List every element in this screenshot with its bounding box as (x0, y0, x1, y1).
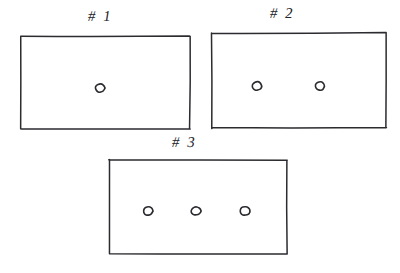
panel-3-circle-2 (191, 207, 201, 215)
panel-2-circle-1 (252, 82, 262, 91)
panel-1-circle-1 (95, 84, 105, 92)
panel-2-rectangle (211, 32, 386, 128)
panel-1-rectangle (21, 36, 191, 129)
panel-2-circle-2 (315, 82, 324, 90)
panel-3-circle-1 (144, 207, 153, 215)
panel-1-circles (95, 84, 105, 92)
panel-3-circle-3 (240, 207, 250, 215)
sketch-canvas: # 1 # 2 # 3 (0, 0, 400, 273)
panel-3-label: # 3 (171, 134, 198, 151)
panel-1-label: # 1 (87, 8, 114, 25)
panel-3-circles (144, 207, 250, 215)
hand-drawn-diagram (0, 0, 400, 273)
panel-2-label: # 2 (269, 5, 296, 22)
panel-2-group (211, 32, 386, 128)
panel-1-group (21, 36, 191, 129)
panel-2-circles (252, 82, 324, 91)
panel-3-group (109, 160, 287, 255)
